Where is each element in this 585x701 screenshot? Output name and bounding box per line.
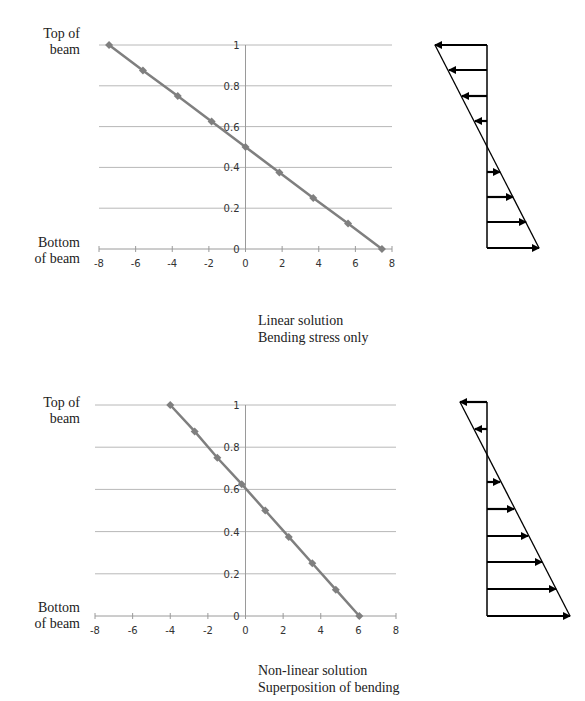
x-tick-label: -2 — [204, 258, 214, 269]
y-tick-label: 1 — [233, 400, 239, 411]
stress-arrow-diagram-linear — [435, 45, 539, 248]
x-tick-label: 2 — [280, 625, 286, 636]
y-tick-label: 0.8 — [224, 442, 240, 453]
x-tick-label: -8 — [90, 625, 100, 636]
x-tick-label: -4 — [167, 258, 177, 269]
chart-linear-solution: 00.20.40.60.81-8-6-4-202468 — [94, 40, 395, 269]
x-tick-label: 8 — [389, 258, 395, 269]
x-tick-label: 0 — [242, 258, 248, 269]
x-tick-label: -6 — [131, 258, 141, 269]
y-tick-label: 0.2 — [224, 569, 240, 580]
x-tick-label: 4 — [316, 258, 322, 269]
chart-nonlinear-solution: 00.20.40.60.81-8-6-4-202468 — [90, 400, 399, 636]
x-tick-label: 2 — [279, 258, 285, 269]
x-tick-label: 4 — [318, 625, 324, 636]
x-tick-label: -2 — [203, 625, 213, 636]
stress-arrow-diagram-nonlinear — [460, 402, 570, 616]
x-tick-label: -8 — [94, 258, 104, 269]
y-tick-label: 0.8 — [224, 81, 240, 92]
x-tick-label: 0 — [242, 625, 248, 636]
y-tick-label: 0.4 — [224, 162, 240, 173]
x-tick-label: 6 — [355, 625, 361, 636]
y-tick-label: 0 — [233, 244, 239, 255]
x-tick-label: -6 — [128, 625, 138, 636]
y-tick-label: 0.2 — [224, 203, 240, 214]
y-tick-label: 1 — [233, 40, 239, 51]
y-tick-label: 0.4 — [224, 527, 240, 538]
stress-envelope-line — [460, 402, 570, 616]
figure-canvas: 00.20.40.60.81-8-6-4-202468 00.20.40.60.… — [0, 0, 585, 701]
y-tick-label: 0 — [233, 611, 239, 622]
x-tick-label: 8 — [393, 625, 399, 636]
x-tick-label: 6 — [352, 258, 358, 269]
x-tick-label: -4 — [165, 625, 175, 636]
y-tick-label: 0.6 — [224, 484, 240, 495]
